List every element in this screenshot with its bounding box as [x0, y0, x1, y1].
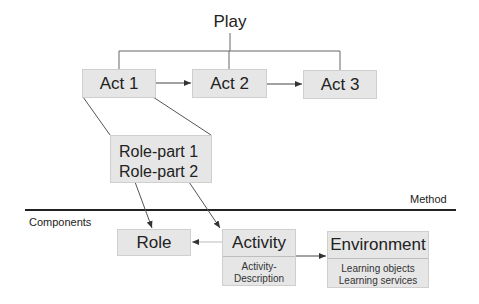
- environment-box: Environment Learning objects Learning se…: [327, 231, 429, 288]
- activity-box: Activity Activity- Description: [222, 229, 296, 286]
- role-part-2-label: Role-part 2: [119, 162, 211, 182]
- activity-label: Activity: [223, 230, 295, 257]
- environment-label: Environment: [328, 232, 428, 259]
- play-title: Play: [200, 12, 260, 32]
- activity-detail-2: Description: [223, 273, 295, 285]
- role-parts-box: Role-part 1 Role-part 2: [110, 135, 212, 183]
- act-3-box: Act 3: [303, 70, 377, 99]
- environment-detail-1: Learning objects: [328, 263, 428, 275]
- act-2-box: Act 2: [192, 69, 267, 98]
- components-label: Components: [29, 216, 91, 228]
- act-3-label: Act 3: [304, 71, 376, 98]
- environment-detail-2: Learning services: [328, 275, 428, 287]
- method-label: Method: [410, 193, 447, 205]
- act-1-label: Act 1: [83, 70, 155, 97]
- act-2-label: Act 2: [193, 70, 266, 97]
- act-1-box: Act 1: [82, 69, 156, 98]
- activity-detail-1: Activity-: [223, 261, 295, 273]
- role-box: Role: [117, 229, 191, 256]
- role-label: Role: [118, 230, 190, 255]
- role-part-1-label: Role-part 1: [119, 142, 211, 162]
